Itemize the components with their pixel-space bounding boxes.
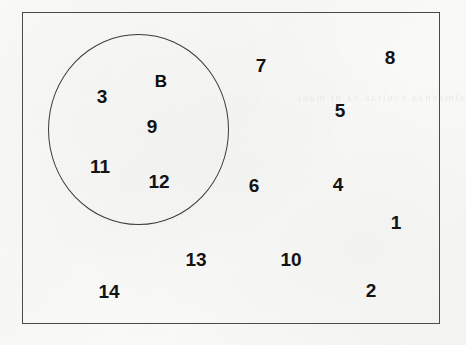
- set-element-14: 14: [98, 282, 119, 301]
- set-element-13: 13: [185, 250, 206, 269]
- set-element-10: 10: [280, 250, 301, 269]
- set-element-9: 9: [147, 117, 158, 136]
- set-label-b: B: [155, 73, 167, 90]
- set-element-4: 4: [333, 175, 344, 194]
- set-element-3: 3: [97, 87, 108, 106]
- set-element-2: 2: [366, 281, 377, 300]
- set-element-7: 7: [256, 56, 267, 75]
- set-b-circle: [48, 34, 229, 225]
- set-element-6: 6: [249, 176, 260, 195]
- scanned-page: almeenaa eoniiaa oa ni maoi B 3911127856…: [0, 0, 466, 345]
- set-element-11: 11: [90, 157, 110, 176]
- set-element-12: 12: [148, 172, 169, 191]
- set-element-1: 1: [391, 213, 402, 232]
- set-element-5: 5: [335, 101, 346, 120]
- set-element-8: 8: [385, 48, 396, 67]
